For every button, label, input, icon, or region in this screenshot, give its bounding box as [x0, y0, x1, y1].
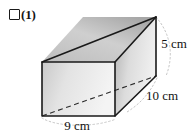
figure-page: (1): [0, 0, 191, 134]
prism-faces: [42, 17, 156, 116]
dimension-label-width: 9 cm: [64, 118, 90, 133]
rectangular-prism-diagram: 5 cm 10 cm 9 cm: [0, 0, 191, 134]
dimension-label-depth: 10 cm: [146, 88, 178, 103]
dimension-label-height: 5 cm: [161, 36, 187, 51]
front-face: [42, 62, 115, 116]
